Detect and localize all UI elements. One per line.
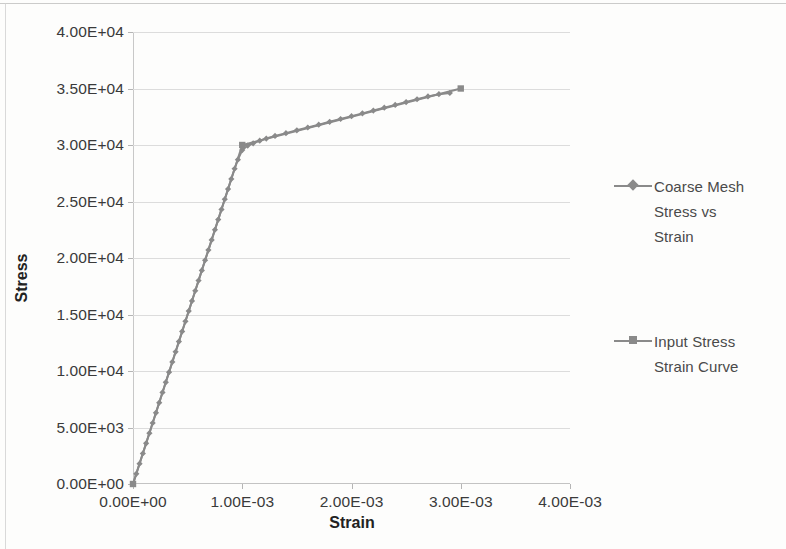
- page-border-left: [5, 3, 6, 549]
- y-tick-label: 4.00E+04: [56, 23, 124, 41]
- y-tick-label: 3.00E+04: [56, 136, 124, 154]
- y-tick-label: 5.00E+03: [56, 419, 124, 437]
- legend-label: Input Stress Strain Curve: [654, 329, 739, 379]
- x-tick-label: 3.00E-03: [429, 493, 493, 511]
- chart-screenshot: Stress Strain 0.00E+005.00E+031.00E+041.…: [0, 0, 786, 549]
- page-border-top: [0, 3, 786, 4]
- legend-marker-square-icon: [612, 331, 654, 351]
- series-plot: [133, 32, 570, 484]
- y-tick-label: 2.00E+04: [56, 249, 124, 267]
- x-tick-label: 1.00E-03: [210, 493, 274, 511]
- x-axis-title: Strain: [329, 514, 374, 532]
- series-line: [133, 93, 450, 484]
- x-tick: [352, 484, 353, 489]
- y-tick-label: 2.50E+04: [56, 193, 124, 211]
- x-tick: [461, 484, 462, 489]
- y-axis-title: Stress: [13, 254, 31, 303]
- y-tick-label: 1.50E+04: [56, 306, 124, 324]
- y-tick-label: 1.00E+04: [56, 362, 124, 380]
- data-point-marker: [130, 481, 136, 487]
- legend-entry-coarse-mesh: Coarse Mesh Stress vs Strain: [612, 174, 744, 249]
- data-point-marker: [458, 85, 464, 91]
- series-line: [133, 89, 461, 485]
- chart-frame: Stress Strain 0.00E+005.00E+031.00E+041.…: [16, 14, 770, 539]
- x-tick: [242, 484, 243, 489]
- legend-marker-diamond-icon: [612, 176, 654, 196]
- y-tick-label: 3.50E+04: [56, 80, 124, 98]
- x-tick-label: 4.00E-03: [538, 493, 602, 511]
- plot-area: 0.00E+005.00E+031.00E+041.50E+042.00E+04…: [133, 32, 570, 484]
- legend-entry-input-curve: Input Stress Strain Curve: [612, 329, 739, 379]
- x-tick: [570, 484, 571, 489]
- legend-label: Coarse Mesh Stress vs Strain: [654, 174, 744, 249]
- x-tick-label: 0.00E+00: [99, 493, 167, 511]
- x-tick-label: 2.00E-03: [320, 493, 384, 511]
- y-tick-label: 0.00E+00: [56, 475, 124, 493]
- data-point-marker: [239, 142, 245, 148]
